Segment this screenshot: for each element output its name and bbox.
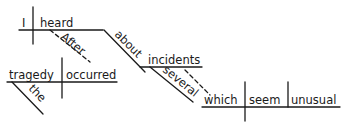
word-seem: seem — [249, 93, 280, 107]
word-unusual: unusual — [291, 93, 336, 107]
word-subject-i: I — [22, 16, 25, 30]
word-incidents: incidents — [148, 53, 200, 67]
sentence-diagram: I heard After about incidents several tr… — [0, 0, 343, 123]
word-after: After — [58, 29, 88, 57]
word-tragedy: tragedy — [9, 68, 54, 82]
word-occurred: occurred — [66, 68, 116, 82]
word-which: which — [204, 93, 238, 107]
word-the: the — [26, 81, 49, 104]
word-verb-heard: heard — [40, 16, 73, 30]
